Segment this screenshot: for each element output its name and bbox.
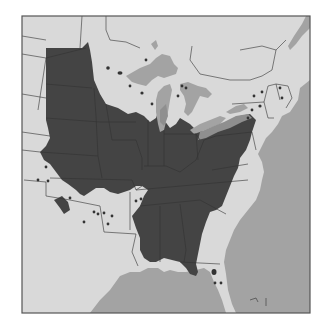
range-map (0, 0, 328, 331)
